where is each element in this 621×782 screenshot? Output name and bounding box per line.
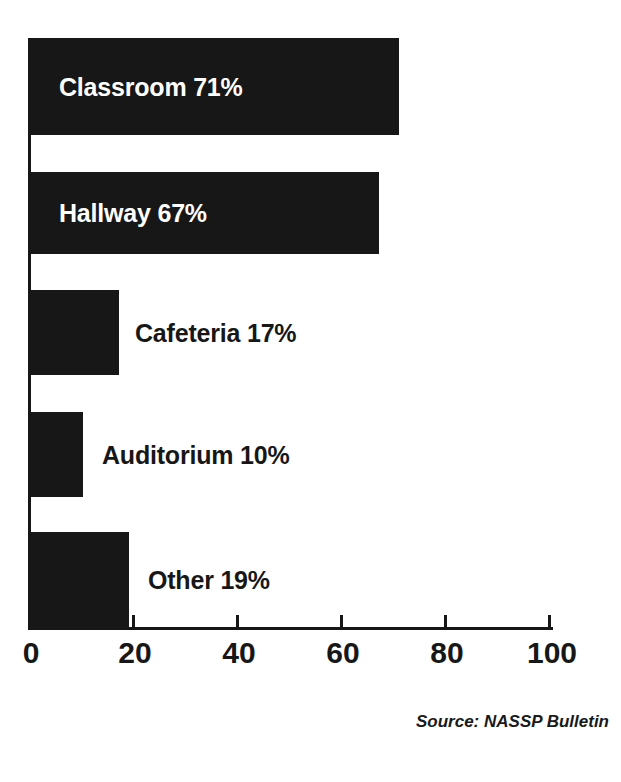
source-note: Source: NASSP Bulletin <box>416 712 609 732</box>
bar-auditorium <box>31 412 83 497</box>
plot-area: Classroom 71% Hallway 67% Cafeteria 17% … <box>31 38 550 627</box>
x-axis-label-0: 0 <box>23 636 40 670</box>
x-axis-label-40: 40 <box>222 636 255 670</box>
bar-row: Other 19% <box>31 532 550 627</box>
bar-label-classroom: Classroom 71% <box>59 72 243 101</box>
bar-other <box>31 532 129 627</box>
x-axis-tick-20 <box>132 615 135 628</box>
bar-row: Auditorium 10% <box>31 412 550 497</box>
bar-cafeteria <box>31 290 119 375</box>
bar-row: Cafeteria 17% <box>31 290 550 375</box>
bar-label-other: Other 19% <box>148 565 270 594</box>
x-axis-tick-60 <box>340 615 343 628</box>
bar-row: Classroom 71% <box>31 38 550 135</box>
horizontal-bar-chart: Classroom 71% Hallway 67% Cafeteria 17% … <box>0 0 621 782</box>
x-axis-tick-0 <box>28 615 31 628</box>
x-axis-label-20: 20 <box>118 636 151 670</box>
bar-label-cafeteria: Cafeteria 17% <box>135 318 296 347</box>
bar-row: Hallway 67% <box>31 172 550 254</box>
x-axis-label-60: 60 <box>326 636 359 670</box>
x-axis-tick-100 <box>548 615 551 628</box>
bar-label-auditorium: Auditorium 10% <box>102 440 290 469</box>
x-axis-tick-80 <box>444 615 447 628</box>
bar-label-hallway: Hallway 67% <box>59 199 207 228</box>
x-axis-label-80: 80 <box>430 636 463 670</box>
y-axis-line <box>28 38 31 630</box>
x-axis-line <box>28 627 553 630</box>
x-axis-tick-40 <box>236 615 239 628</box>
x-axis-label-100: 100 <box>527 636 577 670</box>
